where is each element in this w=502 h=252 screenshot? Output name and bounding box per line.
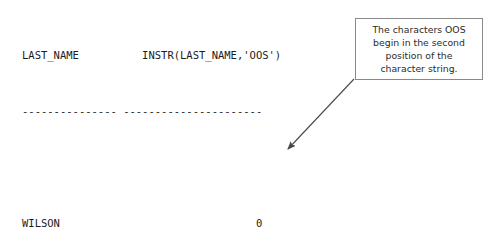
callout-box: The characters OOS begin in the second p… — [355, 18, 483, 80]
table-row: WILSON 0 — [22, 216, 281, 230]
spacer-after-separator — [22, 160, 281, 174]
callout-line-3: position of the — [386, 50, 453, 61]
arrow-line — [288, 79, 354, 149]
table-header-separator: --------------- ---------------------- — [22, 104, 281, 118]
table-header-row: LAST_NAME INSTR(LAST_NAME,'OOS') — [22, 48, 281, 62]
callout-line-2: begin in the second — [373, 37, 465, 48]
callout-text: The characters OOS begin in the second p… — [366, 23, 471, 75]
callout-line-4: character string. — [380, 63, 457, 74]
sql-console-listing: LAST_NAME INSTR(LAST_NAME,'OOS') -------… — [22, 6, 281, 252]
callout-line-1: The characters OOS — [372, 24, 465, 35]
